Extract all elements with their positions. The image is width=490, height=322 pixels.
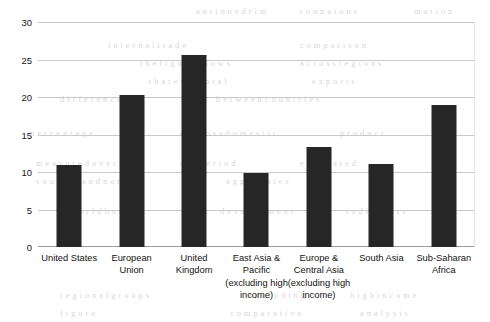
x-axis-category-label-line: (excluding high (288, 277, 350, 289)
bar-series (38, 22, 475, 247)
bar-chart: a n t i n n e d r i mr o u n a i o n sm … (0, 0, 490, 322)
bar (369, 164, 394, 247)
y-axis-tick-label: 15 (21, 129, 32, 140)
y-axis-tick-label: 20 (21, 92, 32, 103)
bar (119, 95, 144, 247)
x-axis-category-label-line: Sub-Saharan (413, 252, 475, 264)
y-axis-tick-labels: 051015202530 (0, 22, 32, 247)
x-axis-category-label-line: European (100, 252, 162, 264)
bar-slot (163, 22, 225, 247)
y-axis-tick-label: 25 (21, 54, 32, 65)
bar (182, 55, 207, 247)
x-axis-category-labels: United StatesEuropeanUnionUnitedKingdomE… (38, 252, 475, 318)
bar (431, 105, 456, 247)
x-axis-category-label-line: Kingdom (163, 264, 225, 276)
bar (57, 165, 82, 247)
y-axis-tick-label: 0 (27, 242, 32, 253)
x-axis-category-label-line: Union (100, 264, 162, 276)
bleedthrough-line: a n t i n n e d r i m (196, 6, 267, 16)
x-axis-category-label-line: Africa (413, 264, 475, 276)
bar-slot (350, 22, 412, 247)
bar-slot (288, 22, 350, 247)
y-axis-tick-label: 30 (21, 17, 32, 28)
x-axis-category-label: Europe &Central Asia(excluding highincom… (288, 252, 350, 302)
x-axis-category-label-line: Central Asia (288, 264, 350, 276)
x-axis-category-label-line: (excluding high (225, 277, 287, 289)
bar (306, 147, 331, 247)
x-axis-category-label: Sub-SaharanAfrica (413, 252, 475, 277)
x-axis-category-label: South Asia (350, 252, 412, 264)
x-axis-category-label-line: South Asia (350, 252, 412, 264)
bar-slot (38, 22, 100, 247)
x-axis-category-label: East Asia &Pacific(excluding highincome) (225, 252, 287, 302)
bar-slot (225, 22, 287, 247)
bar-slot (413, 22, 475, 247)
x-axis-category-label: United States (38, 252, 100, 264)
x-axis-category-label-line: East Asia & (225, 252, 287, 264)
x-axis-category-label-line: Pacific (225, 264, 287, 276)
bar (244, 173, 269, 247)
bar-slot (100, 22, 162, 247)
bleedthrough-line: r o u n a i o n s (300, 6, 357, 16)
x-axis-category-label: EuropeanUnion (100, 252, 162, 277)
x-axis-category-label-line: income) (288, 289, 350, 301)
y-axis-tick-label: 10 (21, 167, 32, 178)
bleedthrough-line: m a t i o n (414, 6, 453, 16)
y-axis-tick-label: 5 (27, 204, 32, 215)
x-axis-category-label-line: United States (38, 252, 100, 264)
x-axis-category-label-line: Europe & (288, 252, 350, 264)
x-axis-category-label-line: United (163, 252, 225, 264)
x-axis-category-label: UnitedKingdom (163, 252, 225, 277)
x-axis-category-label-line: income) (225, 289, 287, 301)
